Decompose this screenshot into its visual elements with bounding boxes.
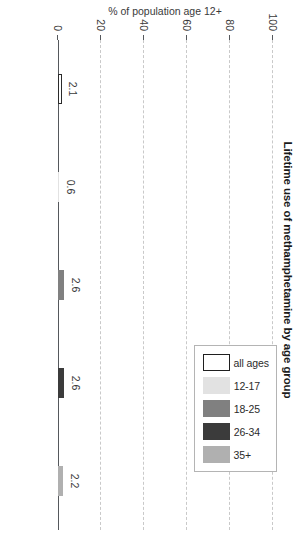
y-axis-title: % of population age 12+ — [58, 4, 273, 18]
chart-legend: all ages12-1718-2526-3435+ — [194, 345, 277, 472]
bar-value-label: 2.2 — [69, 474, 81, 489]
y-axis-tick — [57, 35, 58, 40]
legend-item-label: all ages — [234, 357, 269, 369]
legend-item-label: 12-17 — [234, 380, 260, 392]
y-axis-tick-label: 80 — [224, 19, 236, 31]
bar-all-ages[interactable]: 2.1 — [58, 74, 63, 104]
legend-swatch — [203, 446, 230, 463]
y-axis-tick — [100, 35, 101, 40]
legend-swatch — [203, 354, 230, 371]
y-axis-title-text: % of population age 12+ — [109, 5, 223, 17]
legend-item-35-[interactable]: 35+ — [203, 446, 252, 463]
legend-item-label: 35+ — [234, 449, 252, 461]
bar-value-label: 2.6 — [70, 278, 82, 293]
legend-swatch — [203, 377, 230, 394]
legend-item-label: 18-25 — [234, 403, 260, 415]
gridline — [143, 40, 144, 530]
gridline — [186, 40, 187, 530]
bar-value-label: 0.6 — [65, 180, 77, 195]
y-axis-tick-label: 20 — [95, 19, 107, 31]
bar-12-17[interactable]: 0.6 — [58, 172, 59, 202]
legend-item-12-17[interactable]: 12-17 — [203, 377, 260, 394]
legend-item-label: 26-34 — [234, 426, 260, 438]
legend-item-26-34[interactable]: 26-34 — [203, 423, 260, 440]
legend-item-18-25[interactable]: 18-25 — [203, 400, 260, 417]
y-axis-tick — [229, 35, 230, 40]
y-axis-tick-label: 0 — [52, 25, 64, 31]
gridline — [100, 40, 101, 530]
y-axis-tick-label: 100 — [267, 13, 279, 31]
legend-swatch — [203, 400, 230, 417]
y-axis-tick — [143, 35, 144, 40]
chart-title: Lifetime use of methamphetamine by age g… — [282, 0, 294, 540]
bar-18-25[interactable]: 2.6 — [58, 270, 64, 300]
legend-swatch — [203, 423, 230, 440]
y-axis-tick — [186, 35, 187, 40]
bar-value-label: 2.1 — [68, 82, 80, 97]
bar-35-[interactable]: 2.2 — [58, 466, 63, 496]
chart-figure-rotator: Lifetime use of methamphetamine by age g… — [0, 0, 303, 540]
y-axis-tick — [272, 35, 273, 40]
bar-chart-figure: Lifetime use of methamphetamine by age g… — [0, 0, 303, 540]
y-axis-tick-label: 60 — [181, 19, 193, 31]
bar-value-label: 2.6 — [70, 376, 82, 391]
y-axis-tick-label: 40 — [138, 19, 150, 31]
bar-26-34[interactable]: 2.6 — [58, 368, 64, 398]
legend-item-all-ages[interactable]: all ages — [203, 354, 269, 371]
